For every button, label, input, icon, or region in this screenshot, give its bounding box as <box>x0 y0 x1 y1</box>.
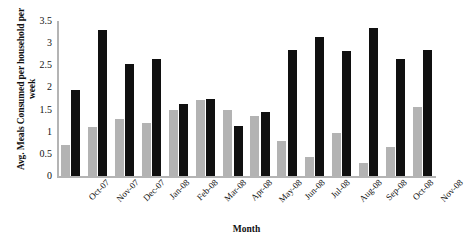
bar-group <box>138 21 165 176</box>
bar-group <box>84 21 111 176</box>
plot-area: 00.511.522.533.5 <box>57 21 436 176</box>
bar-series-black <box>125 64 134 176</box>
x-tick-label: Feb-08 <box>195 178 219 202</box>
x-tick-label: Jun-08 <box>303 178 327 202</box>
bar-series-gray <box>359 163 368 176</box>
bar-group <box>192 21 219 176</box>
bar-series-black <box>234 126 243 176</box>
y-tick-label: 0 <box>47 171 52 181</box>
x-tick-labels: Oct-07Nov-07Dec-07Jan-08Feb-08Mar-08Apr-… <box>57 178 436 222</box>
bar-series-black <box>261 112 270 176</box>
bar-series-black <box>369 28 378 176</box>
y-tick-label: 3.5 <box>40 16 53 26</box>
bar-series-gray <box>115 119 124 176</box>
bar-series-black <box>396 59 405 176</box>
bar-group <box>274 21 301 176</box>
bar-group <box>409 21 436 176</box>
x-tick-label: May-08 <box>277 178 304 205</box>
bar-series-gray <box>169 110 178 176</box>
x-tick-label: Sep-08 <box>385 178 409 202</box>
x-tick-label: Aug-08 <box>358 178 384 204</box>
x-tick-label: Nov-07 <box>115 178 141 204</box>
bar-series-gray <box>413 107 422 176</box>
bar-group <box>57 21 84 176</box>
y-tick-label: 2.5 <box>40 60 53 70</box>
bars-layer <box>57 21 436 176</box>
bar-series-black <box>206 99 215 177</box>
bar-group <box>247 21 274 176</box>
bar-series-black <box>288 50 297 176</box>
bar-series-black <box>423 50 432 176</box>
bar-group <box>301 21 328 176</box>
bar-series-black <box>179 104 188 176</box>
x-tick-label: Apr-08 <box>250 178 275 203</box>
bar-series-black <box>98 30 107 176</box>
bar-series-gray <box>277 141 286 176</box>
x-tick-label: Oct-08 <box>412 178 436 202</box>
x-tick-label: Jan-08 <box>168 178 191 201</box>
x-tick-label: Mar-08 <box>223 178 248 203</box>
x-tick-label: Dec-07 <box>141 178 166 203</box>
bar-series-gray <box>305 157 314 176</box>
bar-group <box>111 21 138 176</box>
y-tick-label: 0.5 <box>40 149 53 159</box>
bar-series-gray <box>88 127 97 176</box>
bar-series-gray <box>142 123 151 176</box>
bar-series-gray <box>250 116 259 176</box>
bar-group <box>382 21 409 176</box>
bar-series-gray <box>223 110 232 176</box>
bar-group <box>328 21 355 176</box>
y-tick-label: 1.5 <box>40 105 53 115</box>
y-tick-label: 2 <box>47 82 52 92</box>
bar-series-gray <box>61 145 70 176</box>
bar-series-black <box>342 51 351 176</box>
y-tick-label: 1 <box>47 127 52 137</box>
x-tick-label: Nov-08 <box>440 178 465 204</box>
x-axis-title: Month <box>57 224 436 234</box>
bar-group <box>219 21 246 176</box>
y-axis-title: Avg. Meals Consumed per household per we… <box>16 4 38 174</box>
bar-series-black <box>315 37 324 177</box>
bar-series-black <box>71 90 80 176</box>
x-tick-label: Oct-07 <box>87 178 111 202</box>
x-tick-label: Jul-08 <box>330 178 352 200</box>
bar-group <box>165 21 192 176</box>
bar-series-gray <box>386 147 395 176</box>
bar-series-gray <box>196 100 205 176</box>
bar-series-gray <box>332 133 341 176</box>
bar-series-black <box>152 59 161 176</box>
bar-group <box>355 21 382 176</box>
y-tick-label: 3 <box>47 38 52 48</box>
